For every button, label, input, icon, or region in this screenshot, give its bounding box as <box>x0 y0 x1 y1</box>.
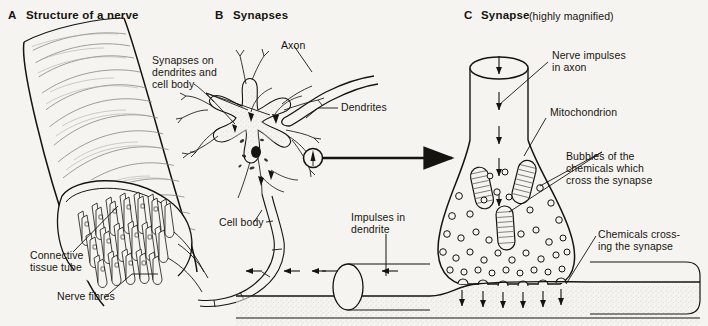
connective-tissue-tube-label: Connective tissue tube <box>30 249 84 273</box>
panel-b-letter: B <box>215 9 223 21</box>
panel-c-title-suffix: (highly magnified) <box>529 10 614 22</box>
axon-label: Axon <box>281 39 305 51</box>
panel-c-synapse-artwork <box>236 56 700 326</box>
chemicals-crossing-synapse-label: Chemicals cross- ing the synapse <box>598 228 680 252</box>
nerve-fibres-label: Nerve fibres <box>57 290 115 302</box>
panel-b-title: Synapses <box>233 9 288 21</box>
panel-a-letter: A <box>8 9 16 21</box>
synapses-on-dendrites-label: Synapses on dendrites and cell body <box>152 54 217 91</box>
panel-a-title: Structure of a nerve <box>26 9 139 21</box>
impulses-in-dendrite-label: Impulses in dendrite <box>351 211 405 235</box>
mitochondrion-label: Mitochondrion <box>550 106 617 118</box>
panel-c-letter: C <box>464 9 472 21</box>
nerve-impulses-in-axon-label: Nerve impulses in axon <box>552 49 626 73</box>
panel-b-synapses-artwork <box>176 46 452 307</box>
dendrites-label: Dendrites <box>341 101 387 113</box>
panel-c-title: Synapse <box>481 9 530 21</box>
figure-canvas: A Structure of a nerve B Synapses C Syna… <box>0 0 708 326</box>
cell-body-label: Cell body <box>219 216 264 228</box>
bubbles-of-chemicals-label: Bubbles of the chemicals which cross the… <box>566 150 652 187</box>
